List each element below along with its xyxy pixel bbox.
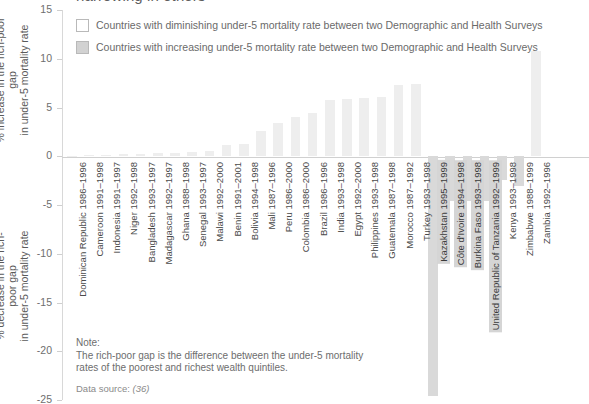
- x-axis-label: Senegal 1993–1997: [196, 160, 209, 249]
- x-axis-label: Dominican Republic 1986–1996: [76, 160, 89, 299]
- bar[interactable]: [205, 151, 215, 156]
- chart-canvas: narrowing in others Countries with dimin…: [0, 0, 589, 404]
- y-tick-mark: [57, 400, 62, 401]
- note-body: The rich-poor gap is the difference betw…: [76, 350, 363, 374]
- bar[interactable]: [291, 117, 301, 156]
- x-axis-label: Benin 1991–2001: [231, 160, 244, 239]
- data-source: Data source: (36): [76, 383, 149, 394]
- y-tick-label: -5: [26, 198, 52, 210]
- note-block: Note:The rich-poor gap is the difference…: [76, 337, 363, 375]
- x-axis-label: Mali 1987–1996: [265, 160, 278, 232]
- bar[interactable]: [84, 155, 94, 156]
- x-axis-label: Zimbabwe 1988–1999: [523, 160, 536, 258]
- x-axis-label: Peru 1986–2000: [282, 160, 295, 234]
- x-axis-label: Philippines 1993–1998: [368, 160, 381, 260]
- note-heading: Note:: [76, 337, 100, 348]
- bar[interactable]: [377, 97, 387, 156]
- x-axis-label: Bolivia 1994–1998: [248, 160, 261, 242]
- page-title: narrowing in others: [76, 0, 205, 4]
- bar[interactable]: [153, 153, 163, 156]
- x-axis-label: India 1993–1998: [334, 160, 347, 235]
- y-tick-label: -25: [26, 393, 52, 404]
- bar[interactable]: [411, 84, 421, 156]
- x-axis-label: Guatemala 1987–1998: [385, 160, 398, 261]
- bar[interactable]: [531, 51, 541, 156]
- bar[interactable]: [101, 155, 111, 156]
- bar[interactable]: [136, 154, 146, 156]
- y-tick-label: -10: [26, 247, 52, 259]
- data-source-ref: (36): [133, 383, 150, 394]
- y-axis-title-increase: % increase in the rich-poor gap in under…: [0, 16, 30, 144]
- bar[interactable]: [342, 99, 352, 157]
- bar[interactable]: [359, 98, 369, 157]
- x-axis-label: Kazakhstan 1995–1999: [437, 160, 450, 264]
- data-source-prefix: Data source:: [76, 383, 133, 394]
- x-axis-label: Bangladesh 1993–1997: [145, 160, 158, 264]
- y-tick-label: 10: [26, 52, 52, 64]
- x-axis-label: Colombia 1986–2000: [299, 160, 312, 254]
- x-axis-label: Ghana 1988–1998: [179, 160, 192, 243]
- x-axis-label: Egypt 1992–2000: [351, 160, 364, 238]
- y-tick-label: 5: [26, 101, 52, 113]
- bar[interactable]: [187, 152, 197, 156]
- x-axis-label: Niger 1992–1998: [127, 160, 140, 237]
- bar[interactable]: [239, 144, 249, 157]
- x-axis-label: Côte d'Ivoire 1994–1998: [454, 160, 467, 267]
- x-axis-label: Zambia 1992–1996: [540, 160, 553, 246]
- bar[interactable]: [273, 123, 283, 156]
- y-axis-title-decrease: % decrease in the rich-poor gap in under…: [0, 222, 30, 350]
- bar[interactable]: [325, 100, 335, 157]
- x-axis-label: Madagascar 1992–1997: [162, 160, 175, 266]
- x-axis-label: Indonesia 1991–1997: [110, 160, 123, 255]
- bar[interactable]: [394, 85, 404, 156]
- x-axis-label: Cameroon 1991–1998: [93, 160, 106, 259]
- y-tick-label: 15: [26, 3, 52, 15]
- x-axis-label: Burkina Faso 1993–1998: [471, 160, 484, 270]
- x-axis-label: Malawi 1992–2000: [213, 160, 226, 244]
- y-tick-label: -15: [26, 296, 52, 308]
- x-axis-label: Brazil 1986–1996: [317, 160, 330, 238]
- x-axis-label: Kenya 1993–1998: [506, 160, 519, 241]
- bar[interactable]: [256, 131, 266, 156]
- bar[interactable]: [119, 154, 129, 156]
- bar[interactable]: [170, 153, 180, 156]
- bar[interactable]: [222, 145, 232, 157]
- y-tick-label: 0: [26, 149, 52, 161]
- bar[interactable]: [67, 156, 77, 157]
- x-axis-label: Turkey 1993–1998: [420, 160, 433, 243]
- y-tick-label: -20: [26, 344, 52, 356]
- x-axis-label: United Republic of Tanzania 1992–1999: [489, 160, 502, 332]
- bar[interactable]: [308, 113, 318, 156]
- x-axis-label: Morocco 1987–1992: [403, 160, 416, 251]
